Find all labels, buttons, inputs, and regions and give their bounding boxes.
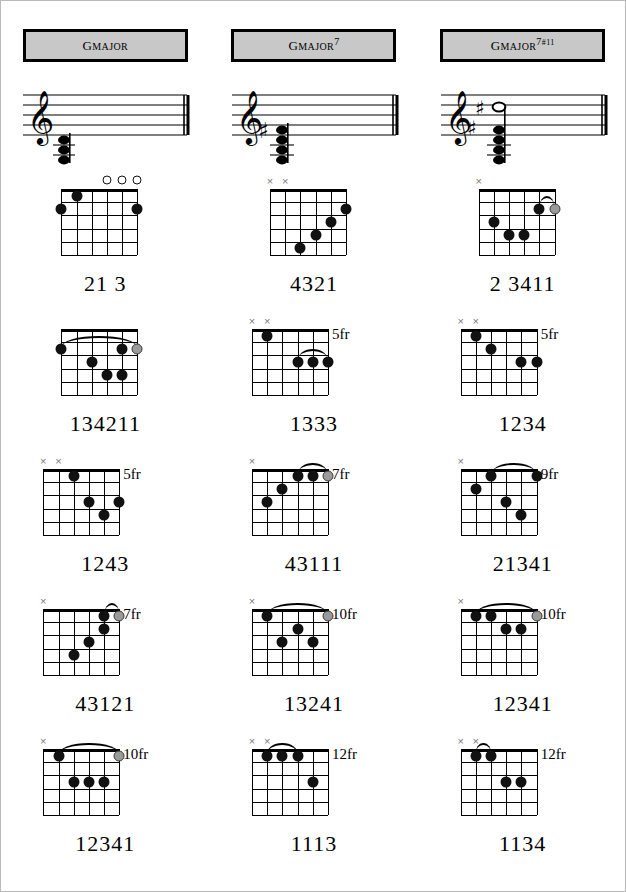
fret-line — [461, 495, 537, 496]
finger-dot — [53, 750, 64, 761]
mute-string-marker: × — [249, 736, 255, 747]
string-line — [137, 189, 138, 255]
mute-string-marker: × — [267, 176, 273, 187]
finger-dot — [470, 330, 481, 341]
fret-line — [461, 775, 537, 776]
finger-dot — [86, 357, 97, 368]
fret-line — [252, 762, 328, 763]
finger-dot — [99, 777, 110, 788]
chord-diagram[interactable]: ××5fr — [461, 309, 549, 403]
chord-diagram[interactable]: ××12fr — [252, 729, 340, 823]
fret-line — [461, 789, 537, 790]
chord-diagram[interactable]: ×× — [270, 169, 358, 263]
fret-line — [252, 802, 328, 803]
fret-line — [461, 662, 537, 663]
chord-diagram[interactable]: ×9fr — [461, 449, 549, 543]
fret-line — [252, 622, 328, 623]
chord-diagram[interactable]: ××12fr — [461, 729, 549, 823]
finger-dot — [117, 370, 128, 381]
chord-name-header-row: GMAJOR GMAJOR7 GMAJOR7#11 — [1, 29, 626, 62]
chord-cell: 21 3 — [15, 169, 195, 309]
chord-diagram[interactable]: × — [479, 169, 567, 263]
finger-dot — [83, 497, 94, 508]
finger-dot — [307, 777, 318, 788]
fingering-numbers: 1113 — [224, 831, 404, 857]
fret-line — [252, 635, 328, 636]
nut-line — [270, 189, 346, 192]
chord-cell: 134211 — [15, 309, 195, 449]
nut-line — [43, 469, 119, 472]
fingering-numbers: 43111 — [224, 551, 404, 577]
chord-diagram[interactable] — [61, 309, 149, 403]
chord-name-box-3: GMAJOR7#11 — [440, 29, 605, 62]
fret-line — [252, 789, 328, 790]
fret-line — [252, 522, 328, 523]
string-line — [328, 749, 329, 815]
chord-name-label-1: GMAJOR — [82, 38, 128, 54]
fret-line — [43, 635, 119, 636]
chord-cell: ×7fr43111 — [224, 449, 404, 589]
string-line — [137, 329, 138, 395]
finger-dot — [56, 203, 67, 214]
string-line — [43, 469, 44, 535]
fingering-numbers: 21341 — [433, 551, 613, 577]
chord-cell: ××12fr1113 — [224, 729, 404, 869]
chord-name-label-3: GMAJOR7#11 — [491, 36, 555, 54]
chord-diagram[interactable]: ×10fr — [43, 729, 131, 823]
fingering-numbers: 12341 — [15, 831, 195, 857]
chord-row: 21 3××4321×2 3411 — [1, 169, 626, 309]
barre-arc — [476, 603, 537, 614]
fret-line — [43, 649, 119, 650]
chord-chart-page: GMAJOR GMAJOR7 GMAJOR7#11 — [0, 0, 626, 892]
finger-dot — [83, 637, 94, 648]
finger-dot — [262, 750, 273, 761]
string-line — [524, 189, 525, 255]
finger-dot — [292, 623, 303, 634]
fingering-numbers: 1134 — [433, 831, 613, 857]
finger-dot — [307, 637, 318, 648]
fret-line — [461, 635, 537, 636]
chord-diagram[interactable]: ××5fr — [43, 449, 131, 543]
svg-text:𝄞: 𝄞 — [27, 90, 54, 146]
chord-diagram[interactable]: ×10fr — [252, 589, 340, 683]
string-line — [298, 609, 299, 675]
fret-line — [43, 662, 119, 663]
string-line — [252, 469, 253, 535]
finger-dot — [531, 357, 542, 368]
string-line — [521, 469, 522, 535]
fret-line — [461, 342, 537, 343]
fret-line — [461, 522, 537, 523]
chord-diagram[interactable]: ×7fr — [43, 589, 131, 683]
chord-diagram[interactable]: ×7fr — [252, 449, 340, 543]
chord-diagram[interactable]: ××5fr — [252, 309, 340, 403]
chord-cell: ××5fr1234 — [433, 309, 613, 449]
finger-dot — [310, 230, 321, 241]
string-line — [506, 329, 507, 395]
mute-string-marker: × — [249, 596, 255, 607]
nut-line — [479, 189, 555, 192]
string-line — [92, 189, 93, 255]
fret-line — [252, 509, 328, 510]
chord-cell: ××5fr1333 — [224, 309, 404, 449]
fret-line — [61, 369, 137, 370]
string-line — [252, 749, 253, 815]
fret-position-label: 12fr — [541, 746, 566, 763]
finger-dot — [516, 357, 527, 368]
fret-line — [252, 382, 328, 383]
fret-position-label: 7fr — [123, 606, 141, 623]
chord-diagram[interactable] — [61, 169, 149, 263]
fingering-numbers: 4321 — [224, 271, 404, 297]
fret-position-label: 5fr — [541, 326, 559, 343]
chord-cell: ×9fr21341 — [433, 449, 613, 589]
string-line — [285, 189, 286, 255]
string-line — [461, 329, 462, 395]
fret-line — [43, 522, 119, 523]
fret-line — [270, 255, 346, 256]
chord-diagram[interactable]: ×10fr — [461, 589, 549, 683]
finger-dot — [262, 610, 273, 621]
barre-arc — [491, 463, 537, 474]
string-line — [555, 189, 556, 255]
finger-dot — [292, 357, 303, 368]
chord-cell: ×10fr12341 — [433, 589, 613, 729]
fret-line — [270, 202, 346, 203]
